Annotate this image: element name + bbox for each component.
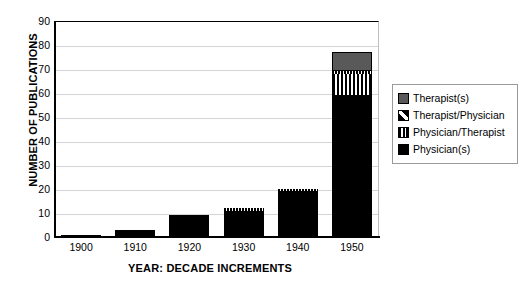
y-axis-tick-labels: 0102030405060708090 — [0, 21, 50, 237]
bar-1900 — [61, 235, 101, 237]
legend-item-0[interactable]: Therapist(s) — [398, 90, 513, 107]
segment-Physician(s) — [332, 95, 372, 237]
x-tick-label: 1910 — [108, 241, 162, 253]
x-tick-label: 1950 — [325, 241, 379, 253]
legend-item-label: Therapist/Physician — [413, 110, 505, 121]
chart-figure: NUMBER OF PUBLICATIONS 01020304050607080… — [0, 0, 523, 287]
x-tick-label: 1900 — [54, 241, 108, 253]
bar-1950 — [332, 52, 372, 237]
bar-1930 — [224, 208, 264, 237]
segment-Therapist/Physician — [278, 189, 318, 191]
segment-Physician(s) — [115, 230, 155, 237]
bar-1940 — [278, 189, 318, 237]
solid-black-icon — [398, 144, 409, 155]
segment-Therapist(s) — [332, 52, 372, 71]
legend-item-label: Physician(s) — [413, 144, 470, 155]
y-tick-label: 40 — [6, 136, 50, 146]
y-tick-label: 90 — [6, 16, 50, 26]
x-tick-label: 1920 — [162, 241, 216, 253]
y-tick-label: 10 — [6, 208, 50, 218]
x-axis-title: YEAR: DECADE INCREMENTS — [40, 262, 380, 274]
segment-Physician(s) — [224, 211, 264, 237]
bar-1910 — [115, 230, 155, 237]
y-tick-label: 20 — [6, 184, 50, 194]
bar-1920 — [169, 215, 209, 237]
solid-gray-icon — [398, 93, 409, 104]
bar-series-group — [54, 21, 379, 237]
legend-item-label: Physician/Therapist — [413, 127, 505, 138]
x-tick-label: 1940 — [271, 241, 325, 253]
segment-Physician(s) — [278, 191, 318, 237]
y-tick-label: 50 — [6, 112, 50, 122]
y-tick-label: 60 — [6, 88, 50, 98]
y-tick-label: 70 — [6, 64, 50, 74]
y-tick-label: 0 — [6, 232, 50, 242]
segment-Therapist/Physician — [332, 71, 372, 73]
diagonal-hatch-icon — [398, 110, 409, 121]
legend-item-label: Therapist(s) — [413, 93, 469, 104]
segment-Physician/Therapist — [332, 74, 372, 96]
y-tick-label: 80 — [6, 40, 50, 50]
segment-Physician(s) — [61, 235, 101, 237]
legend-item-2[interactable]: Physician/Therapist — [398, 124, 513, 141]
legend-item-3[interactable]: Physician(s) — [398, 141, 513, 158]
x-tick-label: 1930 — [217, 241, 271, 253]
chart-legend: Therapist(s)Therapist/PhysicianPhysician… — [392, 84, 518, 164]
x-axis-tick-labels: 190019101920193019401950 — [54, 241, 379, 257]
y-tick-label: 30 — [6, 160, 50, 170]
legend-item-1[interactable]: Therapist/Physician — [398, 107, 513, 124]
segment-Physician(s) — [169, 215, 209, 237]
segment-Therapist/Physician — [224, 208, 264, 210]
vertical-stripe-icon — [398, 127, 409, 138]
